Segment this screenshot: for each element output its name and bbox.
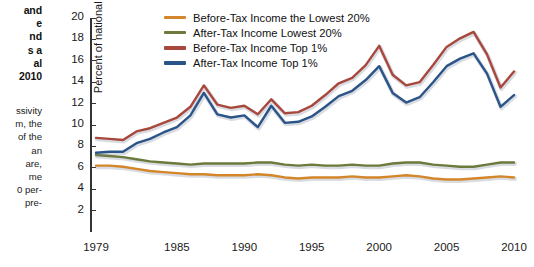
y-tick-label: 20 (62, 10, 84, 22)
x-tick-label: 1995 (289, 241, 335, 253)
y-tick-label: 14 (62, 74, 84, 86)
chart-figure: and e nd s a al 2010 ssivity m, the of t… (0, 0, 534, 267)
x-tick-label: 2005 (424, 241, 470, 253)
y-tick-label: 10 (62, 117, 84, 129)
y-tick-label: 6 (62, 160, 84, 172)
caption-column: and e nd s a al 2010 ssivity m, the of t… (0, 0, 46, 267)
x-tick-label: 2010 (491, 241, 534, 253)
y-tick-label: 4 (62, 181, 84, 193)
chart-area: Percent of national income 2468101214161… (46, 0, 534, 267)
legend-swatch-icon (164, 46, 186, 49)
legend-item: Before-Tax Income the Lowest 20% (164, 10, 370, 25)
legend-swatch-icon (164, 16, 186, 19)
caption-body: ssivity m, the of the an are, me 0 per- … (0, 104, 42, 210)
chart-legend: Before-Tax Income the Lowest 20%After-Ta… (164, 10, 370, 71)
y-tick-label: 8 (62, 138, 84, 150)
legend-item: Before-Tax Income Top 1% (164, 40, 370, 55)
legend-label: After-Tax Income Lowest 20% (193, 27, 342, 39)
x-tick-label: 1985 (154, 241, 200, 253)
legend-item: After-Tax Income Top 1% (164, 56, 370, 71)
legend-swatch-icon (164, 61, 186, 64)
y-tick-label: 18 (62, 31, 84, 43)
y-tick-label: 2 (62, 203, 84, 215)
legend-item: After-Tax Income Lowest 20% (164, 25, 370, 40)
legend-label: Before-Tax Income Top 1% (193, 42, 327, 54)
x-tick-label: 1990 (221, 241, 267, 253)
legend-label: Before-Tax Income the Lowest 20% (193, 12, 370, 24)
y-tick-label: 16 (62, 53, 84, 65)
y-tick-label: 12 (62, 96, 84, 108)
x-tick-label: 1979 (73, 241, 119, 253)
legend-label: After-Tax Income Top 1% (193, 57, 318, 69)
caption-heading: and e nd s a al 2010 (0, 4, 42, 83)
legend-swatch-icon (164, 31, 186, 34)
x-tick-label: 2000 (356, 241, 402, 253)
